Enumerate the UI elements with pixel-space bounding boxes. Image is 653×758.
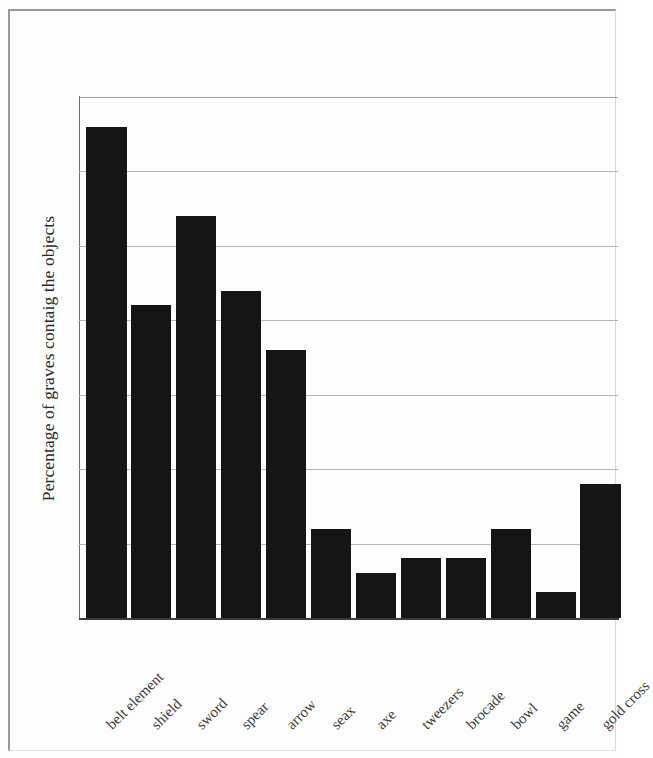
plot-area: 0,0%0,5%1,0%1,5%2,0%2,5%3,0%3,5% belt el… <box>79 97 618 618</box>
gridline <box>79 246 618 247</box>
bar-seax <box>311 529 351 618</box>
gridline <box>79 171 618 172</box>
bar-arrow <box>266 350 306 618</box>
x-axis-line <box>79 618 619 620</box>
bar-bowl <box>491 529 531 618</box>
bar-tweezers <box>401 558 441 618</box>
bar-axe <box>356 573 396 618</box>
bar-game <box>536 592 576 618</box>
gridline <box>79 97 618 98</box>
bar-belt-element <box>86 127 126 618</box>
bar-shield <box>131 305 171 618</box>
y-axis-title: Percentage of graves contaig the objects <box>38 79 59 639</box>
bar-spear <box>221 291 261 618</box>
bar-sword <box>176 216 216 618</box>
bar-gold-cross <box>580 484 620 618</box>
bar-brocade <box>446 558 486 618</box>
